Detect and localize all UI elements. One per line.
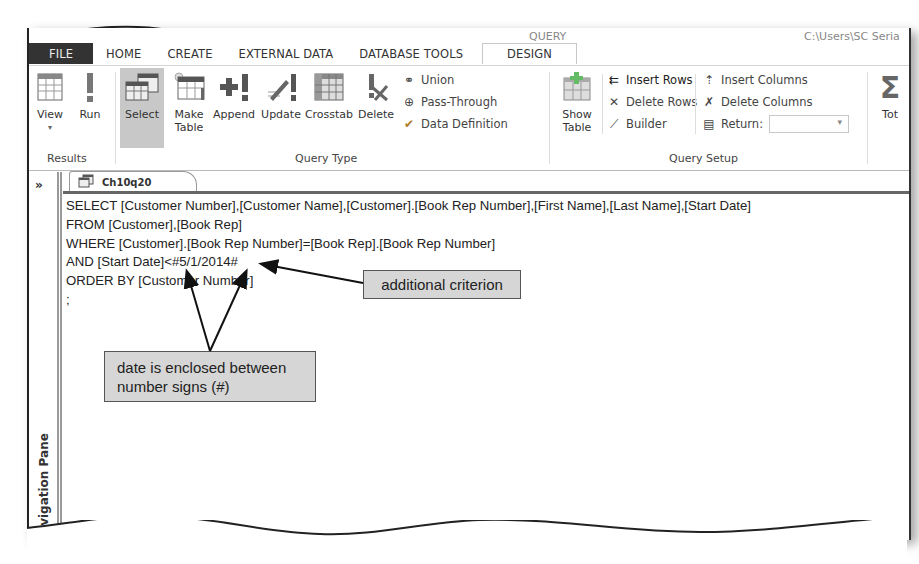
union-circles-icon: ⚭ [401, 73, 417, 87]
return-icon: ▤ [701, 117, 717, 131]
group-separator [867, 72, 868, 164]
tab-home[interactable]: HOME [93, 43, 154, 64]
run-button[interactable]: Run [75, 70, 105, 121]
query-object-icon [78, 174, 94, 190]
show-table-button[interactable]: Show Table [559, 70, 595, 134]
text-cursor-icon: Ɪ [418, 526, 427, 548]
datasheet-view-icon [37, 70, 63, 104]
delete-query-button[interactable]: Delete [356, 70, 396, 121]
data-definition-icon: ✔ [401, 117, 417, 131]
sql-line: SELECT [Customer Number],[Customer Name]… [66, 197, 912, 216]
file-path-fragment: C:\Users\SC Seria [804, 30, 900, 43]
separator [602, 74, 603, 134]
select-query-button[interactable]: Select [120, 68, 164, 148]
update-button[interactable]: Update [259, 70, 303, 121]
insert-rows-icon: ⇇ [606, 73, 622, 87]
crosstab-icon [314, 70, 344, 104]
make-table-button[interactable]: Make Table [169, 70, 209, 134]
navigation-pane-label[interactable]: Navigation Pane [37, 434, 51, 544]
select-query-icon [124, 70, 160, 104]
builder-wand-icon: ⟋ [606, 117, 622, 131]
show-table-icon [562, 70, 592, 104]
ribbon-tabs: FILE HOME CREATE EXTERNAL DATA DATABASE … [29, 43, 909, 64]
return-dropdown[interactable] [769, 115, 849, 133]
data-definition-button[interactable]: ✔Data Definition [401, 115, 508, 133]
group-separator [549, 72, 550, 164]
delete-rows-icon: ✕ [606, 95, 622, 109]
insert-rows-button[interactable]: ⇇Insert Rows [606, 71, 693, 89]
run-exclamation-icon [84, 70, 96, 104]
insert-columns-icon: ⇡ [701, 73, 717, 87]
callout-date-number-signs: date is enclosed between number signs (#… [104, 351, 316, 402]
group-label-query-setup: Query Setup [669, 152, 738, 165]
append-button[interactable]: Append [212, 70, 256, 121]
sigma-icon: Σ [880, 70, 901, 104]
callout-additional-criterion: additional criterion [363, 270, 521, 299]
delete-rows-button[interactable]: ✕Delete Rows [606, 93, 697, 111]
view-button[interactable]: View ▾ [35, 70, 65, 134]
delete-columns-button[interactable]: ✗Delete Columns [701, 93, 812, 111]
window-title-fragment: QUERY [529, 30, 566, 43]
group-label-results: Results [47, 152, 87, 165]
crosstab-button[interactable]: Crosstab [305, 70, 353, 121]
tab-design[interactable]: DESIGN [482, 43, 577, 64]
make-table-icon [173, 70, 205, 104]
append-icon [217, 70, 251, 104]
sql-line: WHERE [Customer].[Book Rep Number]=[Book… [66, 235, 912, 254]
expand-nav-pane-button[interactable]: » [35, 178, 43, 192]
group-label-query-type: Query Type [295, 152, 357, 165]
return-control: ▤Return: [701, 115, 849, 133]
insert-columns-button[interactable]: ⇡Insert Columns [701, 71, 808, 89]
sql-line: FROM [Customer],[Book Rep] [66, 216, 912, 235]
chevron-down-icon: ▾ [48, 121, 52, 134]
ribbon: View ▾ Run Results Select Make Table [29, 65, 909, 171]
tab-file[interactable]: FILE [29, 43, 93, 64]
tab-external-data[interactable]: EXTERNAL DATA [226, 43, 347, 64]
pass-through-button[interactable]: ⊕Pass-Through [401, 93, 497, 111]
tab-create[interactable]: CREATE [154, 43, 225, 64]
globe-icon: ⊕ [401, 95, 417, 109]
delete-query-icon [363, 70, 389, 104]
union-button[interactable]: ⚭Union [401, 71, 454, 89]
separator [695, 74, 696, 134]
builder-button[interactable]: ⟋Builder [606, 115, 667, 133]
tab-database-tools[interactable]: DATABASE TOOLS [346, 43, 476, 64]
document-tab-ch10q20[interactable]: Ch10q20 [69, 171, 197, 192]
delete-columns-icon: ✗ [701, 95, 717, 109]
update-pencil-icon [264, 70, 298, 104]
navigation-pane: » Navigation Pane [29, 172, 62, 542]
totals-button[interactable]: Σ Tot [875, 70, 905, 121]
group-separator [115, 72, 116, 164]
